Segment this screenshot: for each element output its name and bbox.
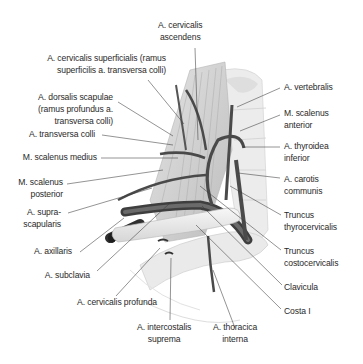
- label-a-intercostalis-suprema: A. intercostalis suprema: [137, 322, 191, 346]
- label-a-cervicalis-ascendens: A. cervicalis ascendens: [158, 20, 203, 44]
- label-m-scalenus-posterior: M. scalenus posterior: [18, 177, 63, 201]
- label-a-subclavia: A. subclavia: [45, 270, 90, 282]
- label-a-transversa-colli: A. transversa colli: [29, 129, 95, 141]
- label-truncus-costocervicalis: Truncus costocervicalis: [284, 246, 338, 270]
- label-a-axillaris: A. axillaris: [34, 246, 72, 258]
- label-m-scalenus-medius: M. scalenus medius: [23, 152, 97, 164]
- label-a-cervicalis-profunda: A. cervicalis profunda: [77, 297, 157, 309]
- label-a-thyroidea-inferior: A. thyroidea inferior: [284, 141, 329, 165]
- first-rib: [130, 232, 268, 323]
- label-a-thoracica-interna: A. thoracica interna: [213, 322, 257, 346]
- label-a-carotis-communis: A. carotis communis: [284, 174, 322, 198]
- label-a-cervicalis-superficialis: A. cervicalis superficialis (ramus super…: [47, 53, 166, 77]
- anatomy-figure: A. cervicalis ascendens A. cervicalis su…: [0, 0, 363, 364]
- label-costa-i: Costa I: [284, 306, 311, 318]
- label-a-dorsalis-scapulae: A. dorsalis scapulae (ramus profundus a.…: [38, 92, 113, 127]
- label-a-suprascapularis: A. supra- scapularis: [23, 207, 61, 231]
- label-truncus-thyrocervicalis: Truncus thyrocervicalis: [284, 210, 337, 234]
- label-m-scalenus-anterior: M. scalenus anterior: [284, 108, 329, 132]
- label-a-vertebralis: A. vertebralis: [284, 82, 333, 94]
- label-clavicula: Clavicula: [284, 282, 318, 294]
